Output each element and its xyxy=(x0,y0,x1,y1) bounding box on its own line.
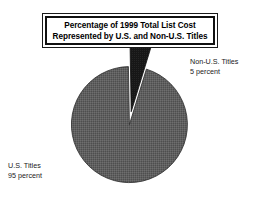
callout-non-us-name: Non-U.S. Titles xyxy=(190,57,238,67)
chart-title-line-1: Percentage of 1999 Total List Cost xyxy=(64,20,195,31)
callout-us-name: U.S. Titles xyxy=(8,161,42,171)
chart-title-box-inner: Percentage of 1999 Total List Cost Repre… xyxy=(45,16,215,45)
callout-us-value: 95 percent xyxy=(8,171,42,181)
chart-title-box: Percentage of 1999 Total List Cost Repre… xyxy=(42,13,218,48)
chart-title-line-2: Represented by U.S. and Non-U.S. Titles xyxy=(53,31,208,42)
callout-non-us-value: 5 percent xyxy=(190,67,238,77)
pie-slice-us-titles xyxy=(71,67,187,183)
callout-label-non-us-titles: Non-U.S. Titles 5 percent xyxy=(190,57,238,76)
callout-label-us-titles: U.S. Titles 95 percent xyxy=(8,161,42,180)
pie-chart-figure: Percentage of 1999 Total List Cost Repre… xyxy=(0,0,265,207)
